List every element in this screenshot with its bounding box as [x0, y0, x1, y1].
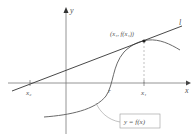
tangent-line — [12, 26, 182, 91]
curve-label: y = f(x) — [123, 118, 146, 126]
x-axis-label: x — [184, 86, 189, 95]
point-label: (x₁, f(x₁)) — [110, 30, 134, 38]
tangent-point — [142, 39, 145, 42]
r-label: r — [108, 87, 111, 95]
x2-label: x₂ — [25, 89, 32, 97]
line-label: l — [179, 18, 182, 27]
callout-connector — [96, 103, 120, 122]
x1-label: x₁ — [140, 89, 147, 97]
function-curve — [44, 40, 180, 117]
newton-method-diagram: y x l (x₁, f(x₁)) x₂ r x₁ y = f(x) — [0, 0, 196, 140]
x-axis-arrow-icon — [186, 81, 191, 86]
y-axis-label: y — [69, 6, 74, 15]
y-axis-arrow-icon — [64, 7, 69, 13]
